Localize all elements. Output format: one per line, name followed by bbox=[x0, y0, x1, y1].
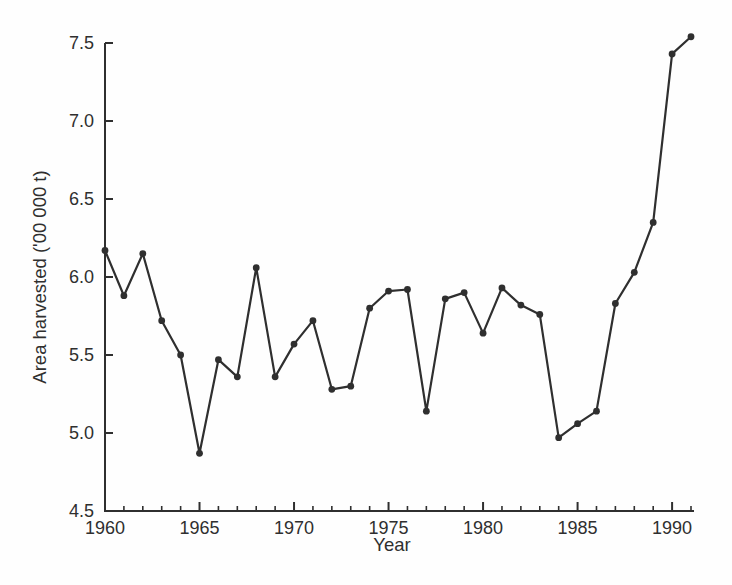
data-point bbox=[688, 33, 695, 40]
data-point bbox=[536, 311, 543, 318]
x-axis-label: Year bbox=[373, 534, 410, 555]
data-point bbox=[404, 286, 411, 293]
data-point bbox=[102, 247, 109, 254]
data-point bbox=[158, 317, 165, 324]
data-point bbox=[480, 330, 487, 337]
data-point bbox=[442, 295, 449, 302]
data-point bbox=[310, 317, 317, 324]
data-point bbox=[121, 292, 128, 299]
data-point bbox=[139, 250, 146, 257]
y-tick-label: 6.0 bbox=[69, 267, 94, 287]
x-tick-label: 1985 bbox=[558, 518, 598, 538]
axis-spine bbox=[105, 43, 694, 511]
data-point bbox=[291, 341, 298, 348]
y-tick-label: 5.5 bbox=[69, 345, 94, 365]
data-point bbox=[196, 450, 203, 457]
y-tick-label: 6.5 bbox=[69, 189, 94, 209]
data-point bbox=[555, 434, 562, 441]
data-point bbox=[272, 373, 279, 380]
axes: 4.55.05.56.06.57.07.51960196519701975198… bbox=[69, 33, 694, 538]
data-point bbox=[177, 352, 184, 359]
data-point bbox=[631, 269, 638, 276]
data-point bbox=[669, 51, 676, 58]
y-tick-label: 7.0 bbox=[69, 111, 94, 131]
x-tick-label: 1970 bbox=[274, 518, 314, 538]
y-tick-label: 7.5 bbox=[69, 33, 94, 53]
data-series bbox=[102, 33, 695, 456]
data-point bbox=[215, 356, 222, 363]
data-point bbox=[385, 288, 392, 295]
data-point bbox=[499, 285, 506, 292]
data-point bbox=[234, 373, 241, 380]
data-point bbox=[612, 300, 619, 307]
y-axis-label: Area harvested ('00 000 t) bbox=[29, 170, 50, 383]
line-chart: 4.55.05.56.06.57.07.51960196519701975198… bbox=[0, 0, 732, 585]
data-point bbox=[517, 302, 524, 309]
data-point bbox=[574, 420, 581, 427]
data-point bbox=[253, 264, 260, 271]
data-line bbox=[105, 37, 691, 454]
data-point bbox=[593, 408, 600, 415]
data-point bbox=[650, 219, 657, 226]
data-point bbox=[423, 408, 430, 415]
data-point bbox=[461, 289, 468, 296]
data-point bbox=[328, 386, 335, 393]
x-tick-label: 1965 bbox=[179, 518, 219, 538]
y-tick-label: 5.0 bbox=[69, 423, 94, 443]
line-chart-figure: 4.55.05.56.06.57.07.51960196519701975198… bbox=[0, 0, 732, 585]
data-point bbox=[347, 383, 354, 390]
x-tick-label: 1960 bbox=[85, 518, 125, 538]
x-tick-label: 1980 bbox=[463, 518, 503, 538]
x-tick-label: 1990 bbox=[652, 518, 692, 538]
data-point bbox=[366, 305, 373, 312]
